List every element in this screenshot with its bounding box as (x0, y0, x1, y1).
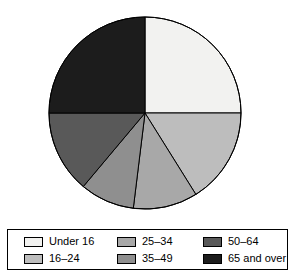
legend-item-label: 65 and over (228, 253, 286, 264)
pie-slice[interactable] (49, 17, 145, 113)
legend-item-label: 25–34 (142, 236, 173, 247)
legend-item-65-and-over[interactable]: 65 and over (203, 253, 287, 264)
legend-swatch-icon (24, 237, 43, 247)
pie-slice[interactable] (145, 17, 241, 113)
legend-item-under-16[interactable]: Under 16 (24, 236, 117, 247)
legend-swatch-icon (117, 254, 136, 264)
pie-chart-area (0, 0, 298, 222)
legend-swatch-icon (117, 237, 136, 247)
legend-item-25-34[interactable]: 25–34 (117, 236, 203, 247)
legend-item-16-24[interactable]: 16–24 (24, 253, 117, 264)
legend-item-label: Under 16 (49, 236, 94, 247)
pie-chart-svg (0, 0, 298, 222)
chart-legend: Under 16 25–34 50–64 16–24 35–49 65 and … (7, 229, 288, 270)
legend-swatch-icon (203, 254, 222, 264)
legend-item-35-49[interactable]: 35–49 (117, 253, 203, 264)
legend-grid: Under 16 25–34 50–64 16–24 35–49 65 and … (8, 233, 287, 267)
legend-item-50-64[interactable]: 50–64 (203, 236, 287, 247)
legend-swatch-icon (203, 237, 222, 247)
legend-item-label: 35–49 (142, 253, 173, 264)
legend-item-label: 16–24 (49, 253, 80, 264)
legend-item-label: 50–64 (228, 236, 259, 247)
legend-swatch-icon (24, 254, 43, 264)
